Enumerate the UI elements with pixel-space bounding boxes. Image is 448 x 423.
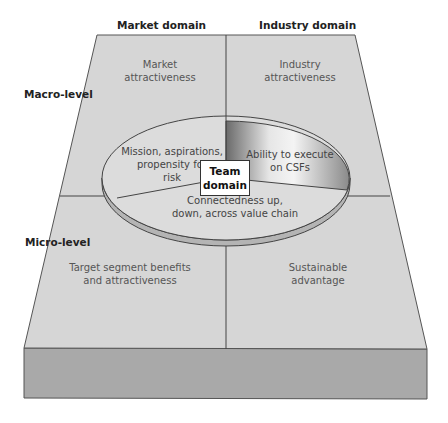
industry-domain-header: Industry domain bbox=[259, 19, 356, 31]
team-domain-box: Team domain bbox=[200, 160, 250, 196]
slab-front-face bbox=[24, 348, 427, 399]
quadrant-market-attractiveness: Market attractiveness bbox=[110, 58, 210, 84]
segment-ability: Ability to execute on CSFs bbox=[240, 148, 340, 174]
macro-level-label: Macro-level bbox=[24, 88, 93, 100]
quadrant-industry-attractiveness: Industry attractiveness bbox=[250, 58, 350, 84]
segment-connectedness: Connectedness up, down, across value cha… bbox=[160, 194, 310, 220]
market-domain-header: Market domain bbox=[117, 19, 206, 31]
quadrant-sustainable-advantage: Sustainable advantage bbox=[268, 261, 368, 287]
micro-level-label: Micro-level bbox=[25, 236, 90, 248]
quadrant-target-segment: Target segment benefits and attractivene… bbox=[60, 261, 200, 287]
